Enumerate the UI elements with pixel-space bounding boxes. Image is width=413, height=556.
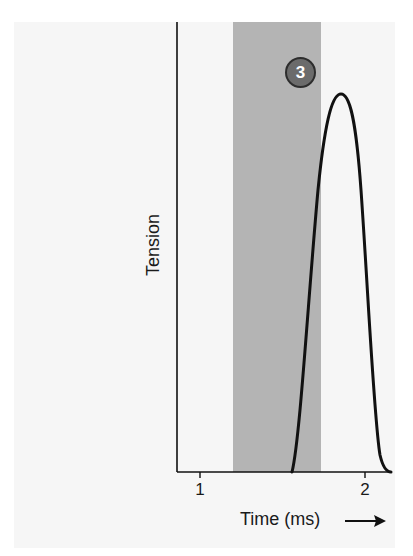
shaded-period-band [233, 22, 321, 472]
tension-time-chart [0, 0, 413, 556]
x-tick-label-2: 2 [360, 480, 369, 500]
x-tick-label-1: 1 [195, 480, 204, 500]
x-axis-label: Time (ms) [240, 509, 320, 530]
step-number-badge: 3 [285, 57, 316, 88]
y-axis-label: Tension [143, 214, 164, 276]
